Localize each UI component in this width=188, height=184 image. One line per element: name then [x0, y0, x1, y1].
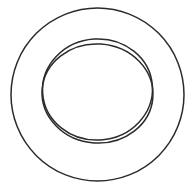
diagram-canvas — [0, 0, 188, 184]
background — [0, 0, 188, 184]
